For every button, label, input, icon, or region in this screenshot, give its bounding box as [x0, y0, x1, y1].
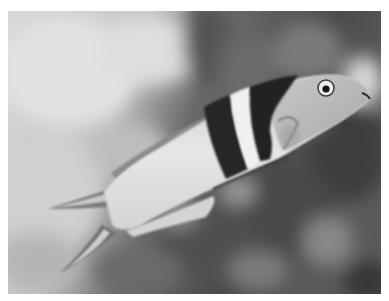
fish-eye: [318, 80, 334, 96]
fish-photograph: [8, 11, 381, 294]
photo-canvas: [8, 11, 381, 294]
